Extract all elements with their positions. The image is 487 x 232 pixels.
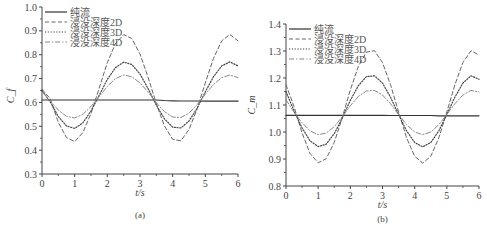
y-tick-label: 1.0: [269, 127, 282, 138]
legend-label: 浸没深度4D: [70, 36, 122, 48]
x-tick-label: 4: [170, 178, 175, 189]
x-tick-label: 5: [203, 178, 208, 189]
x-tick-label: 0: [40, 178, 45, 189]
y-tick-label: 0.7: [25, 73, 38, 84]
x-tick-label: 6: [236, 178, 241, 189]
x-axis-title: t/s: [378, 199, 388, 210]
y-tick-label: 0.6: [25, 97, 38, 108]
x-axis-title: t/s: [135, 187, 145, 198]
x-tick-label: 1: [316, 190, 321, 201]
y-axis-title: C_m: [246, 96, 257, 115]
x-tick-label: 1: [72, 178, 77, 189]
x-tick-label: 0: [284, 190, 289, 201]
y-tick-label: 1.2: [269, 73, 282, 84]
y-tick-label: 0.9: [25, 25, 38, 36]
x-tick-label: 2: [105, 178, 110, 189]
series-line-0: [42, 100, 238, 101]
y-tick-label: 0.5: [25, 121, 38, 132]
y-tick-label: 1.4: [269, 19, 282, 30]
chart-a: 0.30.40.50.60.70.80.91.00123456t/sC_f(a)…: [5, 2, 241, 221]
y-tick-label: 0.8: [25, 49, 38, 60]
y-tick-label: 0.3: [25, 169, 38, 180]
x-tick-label: 4: [412, 190, 417, 201]
series-line-2: [286, 76, 479, 147]
y-tick-label: 0.4: [25, 145, 38, 156]
series-line-3: [42, 75, 238, 118]
chart-b: 0.80.91.01.11.21.31.40123456t/sC_m(b)纯流浸…: [246, 19, 482, 225]
figure-caption: (a): [135, 210, 145, 220]
y-tick-label: 1.0: [25, 2, 38, 13]
x-tick-label: 5: [444, 190, 449, 201]
legend-label: 浸没深度4D: [314, 53, 366, 65]
y-axis-title: C_f: [5, 88, 16, 104]
figure-canvas: 0.30.40.50.60.70.80.91.00123456t/sC_f(a)…: [0, 0, 487, 232]
y-tick-label: 0.8: [269, 181, 282, 192]
series-line-1: [42, 34, 238, 141]
figure-caption: (b): [377, 214, 388, 224]
y-tick-label: 0.9: [269, 154, 282, 165]
y-tick-label: 1.3: [269, 46, 282, 57]
series-line-3: [286, 90, 479, 134]
x-tick-label: 6: [477, 190, 482, 201]
y-tick-label: 1.1: [269, 100, 282, 111]
x-tick-label: 2: [348, 190, 353, 201]
series-line-0: [286, 115, 479, 116]
